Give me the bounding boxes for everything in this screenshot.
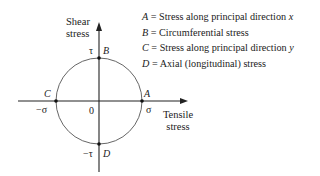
origin-label: 0 <box>89 105 94 116</box>
neg-tau-label: −τ <box>83 148 93 159</box>
x-axis-label: Tensile stress <box>161 109 195 133</box>
legend-item-D: D = Axial (longitudinal) stress <box>142 56 294 72</box>
tau-label: τ <box>89 45 93 56</box>
legend-item-A: A = Stress along principal direction x <box>142 9 294 25</box>
point-D-label: D <box>103 148 110 159</box>
point-A <box>140 99 144 103</box>
y-axis-label: Shear stress <box>66 16 90 40</box>
legend-item-C: C = Stress along principal direction y <box>142 40 294 56</box>
point-B-label: B <box>103 45 109 56</box>
point-C <box>54 99 58 103</box>
legend: A = Stress along principal direction x B… <box>142 9 294 71</box>
neg-sigma-label: −σ <box>36 104 47 115</box>
y-axis-arrow-icon <box>96 22 102 31</box>
x-axis-arrow-icon <box>180 98 188 104</box>
point-B <box>97 56 101 60</box>
legend-item-B: B = Circumferential stress <box>142 25 294 41</box>
point-D <box>97 142 101 146</box>
sigma-label: σ <box>146 104 151 115</box>
point-A-label: A <box>144 88 150 99</box>
point-C-label: C <box>44 88 51 99</box>
